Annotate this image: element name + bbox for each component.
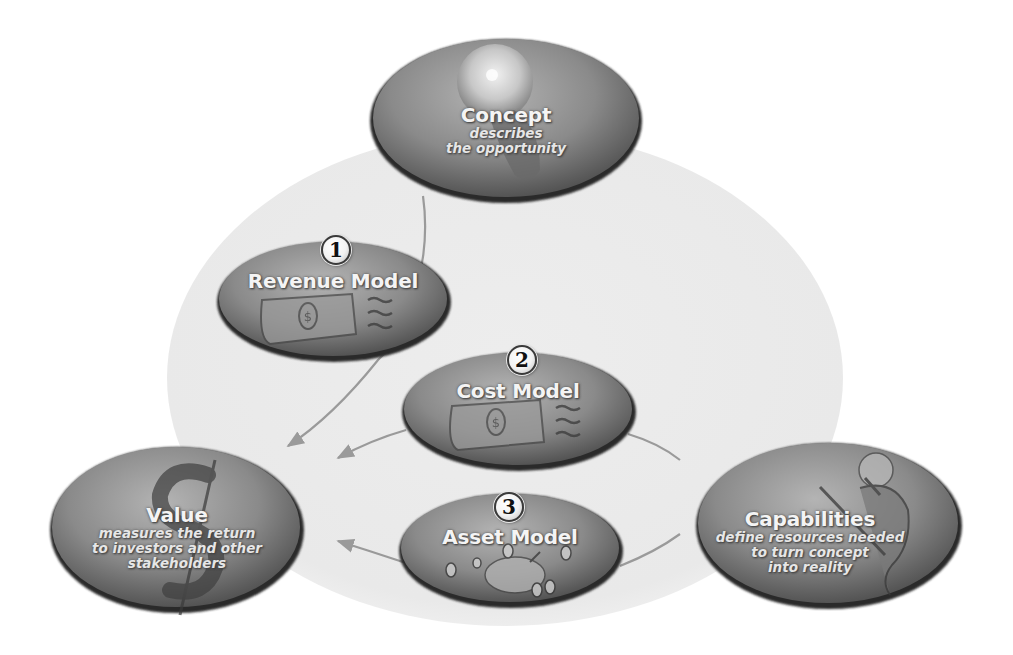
value-subtitle-line-3: stakeholders	[66, 556, 288, 571]
value-title: Value	[66, 504, 288, 526]
revenue-model-label: Revenue Model	[233, 270, 433, 292]
concept-subtitle-line-2: the opportunity	[406, 141, 606, 156]
value-subtitle-line-2: to investors and other	[66, 541, 288, 556]
revenue-model-title: Revenue Model	[233, 270, 433, 292]
capabilities-subtitle-line-1: define resources needed	[700, 530, 920, 545]
capabilities-label: Capabilities define resources needed to …	[700, 508, 920, 575]
concept-subtitle-line-1: describes	[406, 126, 606, 141]
step-badge-3: 3	[494, 492, 524, 522]
value-label: Value measures the return to investors a…	[66, 504, 288, 571]
capabilities-subtitle-line-3: into reality	[700, 560, 920, 575]
concept-title: Concept	[406, 104, 606, 126]
concept-label: Concept describes the opportunity	[406, 104, 606, 156]
asset-model-title: Asset Model	[410, 526, 610, 548]
svg-text:$: $	[492, 415, 500, 430]
cost-model-title: Cost Model	[418, 380, 618, 402]
svg-text:$: $	[304, 309, 312, 324]
business-model-diagram: $ $	[0, 0, 1013, 655]
step-badge-1: 1	[321, 235, 351, 265]
cost-model-label: Cost Model	[418, 380, 618, 402]
value-subtitle-line-1: measures the return	[66, 526, 288, 541]
capabilities-subtitle-line-2: to turn concept	[700, 545, 920, 560]
capabilities-title: Capabilities	[700, 508, 920, 530]
asset-model-label: Asset Model	[410, 526, 610, 548]
step-badge-2: 2	[507, 345, 537, 375]
